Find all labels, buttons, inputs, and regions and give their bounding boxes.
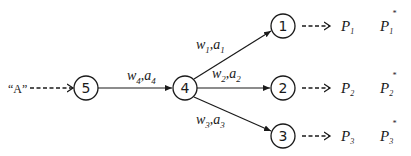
node-3: 3	[271, 124, 295, 148]
edge-label-w1-a1: w1,a1	[196, 37, 225, 55]
network-diagram: “A” w4,a4 w1,a1 w2,a2 w3,a3 5 4 1 2 3 P	[0, 0, 411, 156]
edge-label-w4-a4: w4,a4	[127, 68, 156, 86]
svg-text:3: 3	[279, 128, 288, 144]
node-1: 1	[271, 14, 295, 38]
output-p2-star: P2*	[379, 71, 396, 98]
node-5: 5	[74, 76, 98, 100]
node-4: 4	[173, 76, 197, 100]
output-p1-star: P1*	[379, 9, 396, 36]
output-p3-star: P3*	[379, 119, 396, 146]
edge-label-w2-a2: w2,a2	[212, 66, 241, 84]
output-p2: P2	[340, 80, 354, 98]
output-p1: P1	[340, 18, 354, 36]
diagram-canvas: “A” w4,a4 w1,a1 w2,a2 w3,a3 5 4 1 2 3 P	[0, 0, 411, 156]
input-label: “A”	[8, 82, 27, 96]
svg-text:2: 2	[279, 80, 288, 96]
svg-text:1: 1	[279, 18, 288, 34]
node-2: 2	[271, 76, 295, 100]
output-p3: P3	[340, 128, 354, 146]
edge-label-w3-a3: w3,a3	[196, 112, 225, 130]
svg-text:4: 4	[181, 80, 190, 96]
svg-text:5: 5	[82, 80, 91, 96]
